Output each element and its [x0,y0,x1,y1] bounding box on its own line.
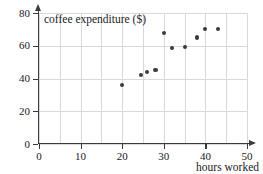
y-axis-tick-label: 0 [4,139,30,150]
x-axis-line [38,143,254,144]
y-axis-tick [33,111,38,112]
y-axis-tick [33,46,38,47]
data-point [195,35,199,39]
x-axis-tick [39,144,40,149]
gridline-horizontal [39,79,247,80]
y-axis-tick-label: 60 [4,40,30,51]
y-axis-tick-label: 80 [4,8,30,19]
y-axis-arrow-icon [35,4,41,11]
x-axis-tick [205,144,206,149]
y-axis-line [38,10,39,144]
x-axis-tick [164,144,165,149]
data-point [153,68,157,72]
y-axis-tick-label: 40 [4,73,30,84]
x-axis-title: hours worked [196,161,259,173]
y-axis-tick [33,144,38,145]
y-axis-tick [33,13,38,14]
plot-area [39,13,247,144]
scatter-plot-chart: 02040608001020304050 coffee expenditure … [0,0,263,174]
x-axis-tick [247,144,248,149]
x-axis-tick-label: 10 [68,151,94,162]
y-axis-tick-label: 20 [4,106,30,117]
x-axis-tick [81,144,82,149]
gridline-horizontal [39,111,247,112]
x-axis-tick [122,144,123,149]
y-axis-tick [33,79,38,80]
x-axis-tick-label: 0 [26,151,52,162]
x-axis-tick-label: 20 [109,151,135,162]
gridline-vertical [247,13,248,144]
gridline-horizontal [39,46,247,47]
data-point [162,31,166,35]
x-axis-tick-label: 30 [151,151,177,162]
y-axis-title: coffee expenditure ($) [44,13,146,25]
x-axis-arrow-icon [249,140,256,146]
